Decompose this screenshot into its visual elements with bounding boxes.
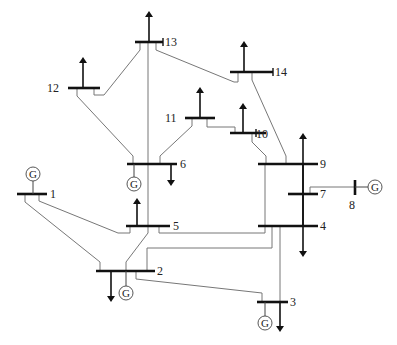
bus-label-13: 13 (165, 35, 177, 49)
bus-label-14: 14 (275, 65, 287, 79)
bus-label-8: 8 (349, 198, 355, 212)
loads (83, 14, 303, 329)
generator-8[interactable]: G (355, 180, 382, 194)
bus-label-7: 7 (320, 187, 326, 201)
bus-label-6: 6 (180, 157, 186, 171)
generators: G G G G G (26, 164, 382, 330)
bus-label-9: 9 (320, 157, 326, 171)
generator-6[interactable]: G (127, 164, 141, 191)
line-14-9 (252, 72, 286, 164)
bus-label-2: 2 (157, 264, 163, 278)
bus-label-4: 4 (320, 219, 326, 233)
bus-label-5: 5 (173, 219, 179, 233)
generator-symbol: G (261, 317, 269, 329)
generator-symbol: G (371, 181, 379, 193)
generator-1[interactable]: G (26, 167, 40, 194)
line-6-12 (77, 88, 133, 164)
bus-label-10: 10 (256, 127, 268, 141)
bus-label-3: 3 (290, 295, 296, 309)
bus-labels: 13 12 14 11 10 6 9 7 8 1 5 4 2 3 (47, 35, 355, 309)
bus-label-1: 1 (50, 187, 56, 201)
line-2-3 (136, 271, 262, 302)
line-1-2 (25, 194, 100, 271)
bus-label-12: 12 (47, 81, 59, 95)
generator-symbol: G (29, 168, 37, 180)
transmission-lines (25, 42, 355, 302)
generator-symbol: G (122, 287, 130, 299)
buses (17, 38, 355, 302)
generator-symbol: G (130, 178, 138, 190)
generator-2[interactable]: G (119, 271, 133, 300)
power-system-diagram: G G G G G 13 12 14 11 10 6 9 7 (0, 0, 397, 345)
line-11-10 (207, 118, 235, 133)
generator-3[interactable]: G (258, 302, 272, 330)
line-12-13 (94, 42, 140, 95)
bus-label-11: 11 (165, 111, 177, 125)
